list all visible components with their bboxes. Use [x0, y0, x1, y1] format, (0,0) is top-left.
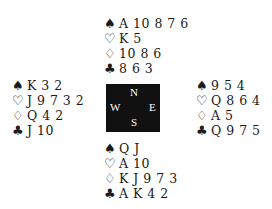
- compass-box: N W E S: [106, 84, 160, 132]
- spade-icon: ♠: [104, 16, 119, 31]
- compass-east: E: [149, 101, 156, 113]
- north-spades: ♠A 10 8 7 6: [104, 16, 189, 31]
- spade-icon: ♠: [104, 141, 119, 156]
- west-hand: ♠K 3 2 ♡J 9 7 3 2 ♢Q 4 2 ♣J 10: [12, 78, 84, 138]
- club-icon: ♣: [104, 186, 119, 201]
- south-spades: ♠Q J: [104, 141, 178, 156]
- compass-south: S: [131, 116, 137, 128]
- spade-icon: ♠: [196, 78, 211, 93]
- diamond-icon: ♢: [12, 108, 27, 123]
- club-icon: ♣: [196, 123, 211, 138]
- south-diamonds: ♢K J 9 7 3: [104, 171, 178, 186]
- diamond-icon: ♢: [196, 108, 211, 123]
- club-icon: ♣: [12, 123, 27, 138]
- west-diamonds: ♢Q 4 2: [12, 108, 84, 123]
- south-hearts: ♡A 10: [104, 156, 178, 171]
- north-hand: ♠A 10 8 7 6 ♡K 5 ♢10 8 6 ♣8 6 3: [104, 16, 189, 76]
- north-hearts: ♡K 5: [104, 31, 189, 46]
- club-icon: ♣: [104, 61, 119, 76]
- heart-icon: ♡: [104, 156, 119, 171]
- heart-icon: ♡: [12, 93, 27, 108]
- heart-icon: ♡: [104, 31, 119, 46]
- south-clubs: ♣A K 4 2: [104, 186, 178, 201]
- east-hearts: ♡Q 8 6 4: [196, 93, 261, 108]
- compass-north: N: [130, 86, 138, 98]
- west-hearts: ♡J 9 7 3 2: [12, 93, 84, 108]
- spade-icon: ♠: [12, 78, 27, 93]
- compass-west: W: [110, 101, 120, 113]
- west-clubs: ♣J 10: [12, 123, 84, 138]
- east-clubs: ♣Q 9 7 5: [196, 123, 261, 138]
- heart-icon: ♡: [196, 93, 211, 108]
- south-hand: ♠Q J ♡A 10 ♢K J 9 7 3 ♣A K 4 2: [104, 141, 178, 201]
- diamond-icon: ♢: [104, 171, 119, 186]
- east-hand: ♠9 5 4 ♡Q 8 6 4 ♢A 5 ♣Q 9 7 5: [196, 78, 261, 138]
- diamond-icon: ♢: [104, 46, 119, 61]
- north-diamonds: ♢10 8 6: [104, 46, 189, 61]
- east-diamonds: ♢A 5: [196, 108, 261, 123]
- north-clubs: ♣8 6 3: [104, 61, 189, 76]
- west-spades: ♠K 3 2: [12, 78, 84, 93]
- east-spades: ♠9 5 4: [196, 78, 261, 93]
